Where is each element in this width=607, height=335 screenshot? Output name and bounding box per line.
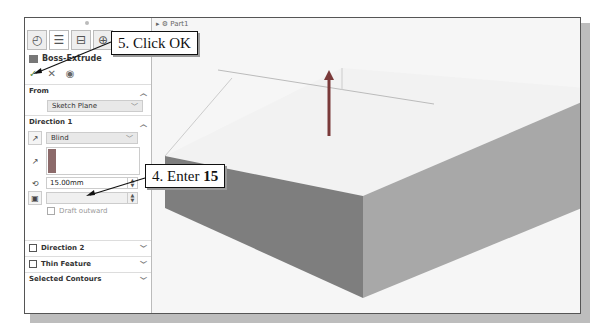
direction1-section: Direction 1︿ ↗ Blind﹀ ↗ ⟲ 15.00mm▲▼ ▣ ▲▼…	[25, 115, 151, 216]
direction1-header[interactable]: Direction 1︿	[25, 115, 151, 130]
configuration-manager-icon: ⊟	[76, 33, 86, 47]
feature-manager-tab[interactable]: ◴	[27, 30, 47, 50]
from-section: From︿ Sketch Plane﹀	[25, 84, 151, 113]
direction2-section: Direction 2﹀	[25, 240, 151, 255]
depth-value: 15.00mm	[50, 179, 84, 187]
chevron-down-icon: ﹀	[140, 275, 147, 285]
thin-feature-header[interactable]: Thin Feature﹀	[25, 256, 151, 271]
chevron-down-icon: ﹀	[131, 101, 138, 111]
direction2-header[interactable]: Direction 2﹀	[25, 240, 151, 255]
chevron-down-icon: ﹀	[140, 243, 147, 253]
draft-icon: ▣	[31, 194, 39, 203]
selected-contours-section: Selected Contours﹀	[25, 272, 151, 287]
depth-icon: ⟲	[28, 179, 42, 188]
draft-angle-input[interactable]: ▲▼	[46, 192, 138, 204]
end-condition-value: Blind	[51, 134, 69, 142]
preview-button[interactable]: ◉	[66, 68, 75, 79]
feature-manager-icon: ◴	[32, 33, 42, 47]
thin-feature-label: Thin Feature	[41, 260, 91, 268]
chevron-up-icon: ︿	[140, 87, 147, 97]
from-label: From	[29, 87, 49, 97]
ok-button[interactable]: ✓	[29, 68, 37, 79]
end-condition-select[interactable]: Blind﹀	[46, 132, 138, 144]
action-buttons: ✓ ✕ ◉	[29, 68, 75, 79]
callout-enter-value: 15	[203, 168, 218, 184]
chevron-down-icon: ﹀	[140, 259, 147, 269]
draft-spinner[interactable]: ▲▼	[127, 193, 137, 203]
property-manager-tab[interactable]: ☰	[49, 30, 69, 50]
callout-click-ok: 5. Click OK	[111, 31, 198, 55]
property-manager-icon: ☰	[54, 33, 65, 47]
reverse-direction-button[interactable]: ↗	[28, 131, 42, 145]
chevron-down-icon: ﹀	[126, 133, 133, 143]
depth-input[interactable]: 15.00mm▲▼	[46, 177, 138, 189]
direction1-label: Direction 1	[29, 118, 72, 128]
property-manager-panel: ◴ ☰ ⊟ ⊕ Boss-Extrude ✓ ✕ ◉ From︿ Sketch …	[25, 18, 152, 313]
depth-spinner[interactable]: ▲▼	[127, 178, 137, 188]
feature-title-label: Boss-Extrude	[42, 54, 102, 63]
boss-extrude-icon	[29, 55, 38, 63]
selected-contours-label: Selected Contours	[29, 275, 101, 285]
dimxpert-icon: ⊕	[98, 33, 108, 47]
from-select[interactable]: Sketch Plane﹀	[47, 100, 143, 112]
draft-outward-checkbox[interactable]	[47, 207, 55, 215]
dimxpert-tab[interactable]: ⊕	[93, 30, 113, 50]
selection-color-bar	[48, 149, 56, 173]
panel-grip[interactable]	[85, 21, 89, 25]
draft-toggle-button[interactable]: ▣	[28, 191, 42, 205]
callout-enter-15: 4. Enter 15	[145, 164, 225, 188]
direction2-checkbox[interactable]	[29, 244, 37, 252]
thin-feature-section: Thin Feature﹀	[25, 256, 151, 271]
direction-selection-box[interactable]	[46, 147, 140, 175]
from-header[interactable]: From︿	[25, 84, 151, 99]
draft-outward-label: Draft outward	[59, 207, 108, 215]
direction-arrow-icon: ↗	[28, 157, 42, 166]
cancel-button[interactable]: ✕	[47, 68, 55, 79]
thin-feature-checkbox[interactable]	[29, 260, 37, 268]
callout-click-ok-text: 5. Click OK	[118, 35, 191, 51]
callout-enter-text: 4. Enter	[152, 168, 203, 184]
reverse-direction-icon: ↗	[32, 134, 39, 143]
direction2-label: Direction 2	[41, 244, 84, 252]
configuration-manager-tab[interactable]: ⊟	[71, 30, 91, 50]
chevron-up-icon: ︿	[140, 118, 147, 128]
manager-tabs: ◴ ☰ ⊟ ⊕	[27, 30, 113, 50]
screenshot-frame: ◴ ☰ ⊟ ⊕ Boss-Extrude ✓ ✕ ◉ From︿ Sketch …	[24, 17, 581, 314]
selected-contours-header[interactable]: Selected Contours﹀	[25, 272, 151, 287]
from-value: Sketch Plane	[52, 102, 97, 110]
feature-title: Boss-Extrude	[29, 54, 102, 63]
